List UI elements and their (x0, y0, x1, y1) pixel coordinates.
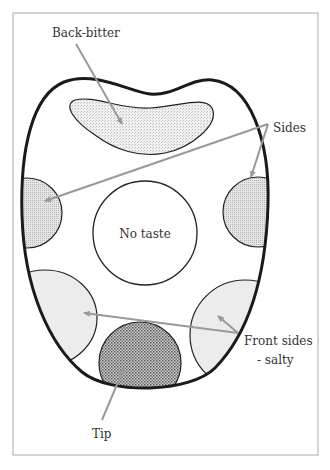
label-sides: Sides (273, 121, 306, 135)
label-back-bitter: Back-bitter (52, 26, 120, 40)
label-tip: Tip (92, 427, 112, 441)
tongue-diagram: Back-bitter Sides No taste Front sides -… (0, 0, 330, 470)
label-no-taste: No taste (119, 227, 171, 241)
label-front-sides: Front sides (244, 334, 313, 348)
left-side-region (0, 178, 62, 248)
label-salty: - salty (257, 353, 294, 367)
